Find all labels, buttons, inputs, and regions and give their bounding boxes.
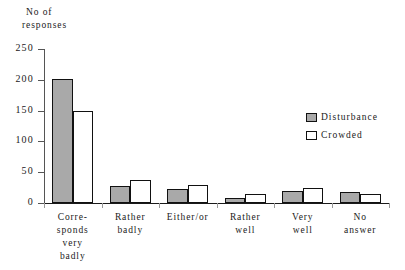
bar-disturbance <box>340 192 361 203</box>
y-axis-title: No of responses <box>26 6 116 31</box>
bar-disturbance <box>110 186 131 203</box>
y-axis-tick-label: 150 <box>0 104 34 115</box>
y-axis-tick-label: 200 <box>0 73 34 84</box>
category-label-line: sponds <box>44 224 102 237</box>
bar-disturbance <box>167 189 188 203</box>
legend-item-crowded: Crowded <box>306 126 378 144</box>
x-axis-tick-mark <box>159 203 160 208</box>
category-label-line: well <box>274 224 332 237</box>
category-label-line: No <box>332 211 390 224</box>
legend-item-disturbance: Disturbance <box>306 108 378 126</box>
x-axis-tick-mark <box>44 203 45 208</box>
category-label-line: Rather <box>217 211 275 224</box>
category-label-line: very <box>44 237 102 250</box>
bar-crowded <box>303 188 324 203</box>
x-axis-category-label: Ratherbadly <box>102 211 160 237</box>
category-label-line: Either/or <box>159 211 217 224</box>
bar-crowded <box>245 194 266 203</box>
bar-disturbance <box>225 198 246 203</box>
chart-legend: Disturbance Crowded <box>306 108 378 144</box>
legend-label-disturbance: Disturbance <box>321 112 378 122</box>
y-axis-title-line-1: No of <box>26 7 52 17</box>
legend-label-crowded: Crowded <box>321 130 363 140</box>
bar-crowded <box>130 180 151 203</box>
bar-crowded <box>188 185 209 203</box>
bar-crowded <box>73 111 94 203</box>
category-label-line: Rather <box>102 211 160 224</box>
bar-crowded <box>360 194 381 203</box>
x-axis-category-label: Ratherwell <box>217 211 275 237</box>
y-axis-tick-label: 250 <box>0 42 34 53</box>
y-axis-tick-label: 100 <box>0 134 34 145</box>
y-axis-tick-label: 50 <box>0 165 34 176</box>
x-axis-tick-mark <box>389 203 390 208</box>
category-label-line: answer <box>332 224 390 237</box>
legend-swatch-icon-disturbance <box>306 113 317 122</box>
x-axis-tick-mark <box>102 203 103 208</box>
x-axis-category-label: Corre-spondsverybadly <box>44 211 102 263</box>
y-axis-title-line-2: responses <box>22 19 116 32</box>
x-axis-category-label: Either/or <box>159 211 217 224</box>
category-label-line: Very <box>274 211 332 224</box>
category-label-line: well <box>217 224 275 237</box>
x-axis-tick-mark <box>274 203 275 208</box>
bar-disturbance <box>52 79 73 203</box>
x-axis-tick-mark <box>217 203 218 208</box>
bar-disturbance <box>282 191 303 203</box>
legend-swatch-icon-crowded <box>306 131 317 140</box>
category-label-line: badly <box>102 224 160 237</box>
x-axis-tick-mark <box>332 203 333 208</box>
bar-chart: No of responses 050100150200250 Corre-sp… <box>0 0 405 270</box>
y-axis-tick-label: 0 <box>0 196 34 207</box>
category-label-line: Corre- <box>44 211 102 224</box>
x-axis-category-label: Verywell <box>274 211 332 237</box>
x-axis-category-label: Noanswer <box>332 211 390 237</box>
category-label-line: badly <box>44 250 102 263</box>
